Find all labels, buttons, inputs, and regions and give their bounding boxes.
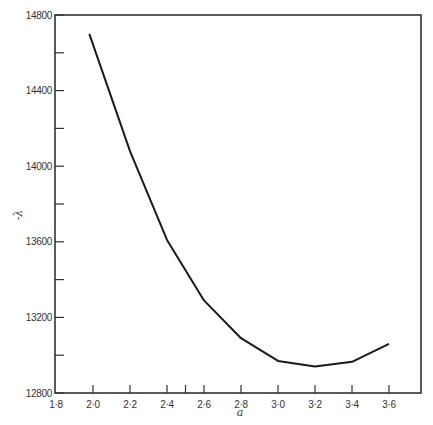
x-tick-label: 3·6	[382, 399, 396, 410]
y-tick-label: 14400	[26, 85, 53, 96]
line-chart: 128001320013600140001440014800 1·82·02·2…	[0, 0, 433, 425]
x-tick-label: 3·2	[308, 399, 322, 410]
y-axis: 128001320013600140001440014800	[26, 10, 64, 399]
y-tick-label: 13600	[26, 236, 53, 247]
x-tick-label: 1·8	[49, 399, 63, 410]
y-tick-label: 14800	[26, 10, 53, 21]
x-axis-label: a	[237, 406, 244, 419]
x-axis: 1·82·02·22·42·62·83·03·23·43·6	[49, 385, 396, 410]
x-tick-label: 3·0	[271, 399, 285, 410]
y-tick-label: 12800	[26, 388, 53, 399]
y-tick-label: 14000	[26, 161, 53, 172]
y-axis-label: -λ	[12, 210, 25, 221]
x-tick-label: 2·6	[197, 399, 211, 410]
y-tick-label: 13200	[26, 312, 53, 323]
data-line	[89, 34, 389, 367]
x-tick-label: 2·0	[86, 399, 100, 410]
x-tick-label: 3·4	[345, 399, 359, 410]
data-series	[89, 34, 389, 367]
x-tick-label: 2·4	[160, 399, 174, 410]
x-tick-label: 2·2	[123, 399, 137, 410]
